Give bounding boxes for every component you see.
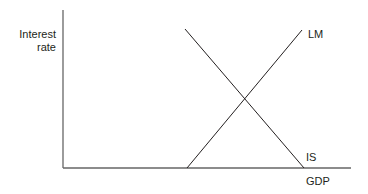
y-axis-label-line1: Interest bbox=[19, 28, 56, 41]
y-axis-label-line2: rate bbox=[19, 41, 56, 54]
y-axis-label: Interest rate bbox=[19, 28, 56, 54]
lm-label: LM bbox=[308, 28, 323, 41]
lm-curve bbox=[187, 30, 302, 168]
is-label: IS bbox=[306, 151, 316, 164]
x-axis-label: GDP bbox=[306, 175, 330, 188]
